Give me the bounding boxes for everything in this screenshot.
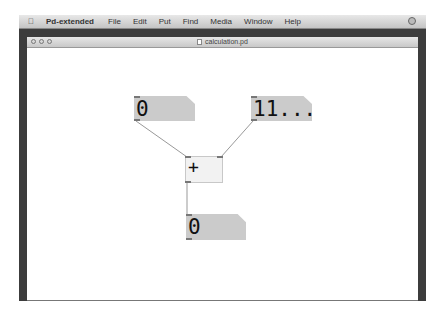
inlet-number-result[interactable]	[186, 214, 192, 216]
outlet-add[interactable]	[185, 181, 191, 183]
menu-app-name[interactable]: Pd-extended	[46, 17, 94, 26]
minimize-button[interactable]	[39, 39, 44, 44]
number-box-right[interactable]: 11...	[251, 96, 312, 121]
menu-edit[interactable]: Edit	[133, 17, 147, 26]
inlet-number-left[interactable]	[134, 96, 140, 98]
menu-window[interactable]: Window	[244, 17, 272, 26]
inlet-add-left[interactable]	[185, 156, 191, 158]
menu-put[interactable]: Put	[159, 17, 171, 26]
inlet-add-right[interactable]	[217, 156, 223, 158]
window-title-bar[interactable]: calculation.pd	[27, 37, 418, 48]
window-controls	[31, 39, 52, 44]
number-box-left-value: 0	[136, 97, 149, 121]
status-icon[interactable]	[408, 17, 416, 25]
outlet-number-right[interactable]	[251, 119, 257, 121]
menu-file[interactable]: File	[108, 17, 121, 26]
menu-help[interactable]: Help	[285, 17, 301, 26]
inlet-number-right[interactable]	[251, 96, 257, 98]
window-title: calculation.pd	[205, 38, 248, 45]
menu-bar:  Pd-extended File Edit Put Find Media W…	[19, 15, 426, 29]
close-button[interactable]	[31, 39, 36, 44]
number-box-result-value: 0	[188, 215, 201, 239]
outlet-number-result[interactable]	[186, 238, 192, 240]
zoom-button[interactable]	[47, 39, 52, 44]
add-object-label: +	[188, 156, 199, 177]
number-box-result[interactable]: 0	[186, 214, 246, 240]
menu-find[interactable]: Find	[183, 17, 199, 26]
menu-media[interactable]: Media	[210, 17, 232, 26]
number-box-right-value: 11...	[253, 97, 316, 121]
apple-icon[interactable]: 	[26, 17, 36, 26]
document-icon	[197, 39, 202, 45]
number-box-left[interactable]: 0	[134, 96, 195, 121]
add-object[interactable]: +	[185, 156, 223, 183]
outlet-number-left[interactable]	[134, 119, 140, 121]
